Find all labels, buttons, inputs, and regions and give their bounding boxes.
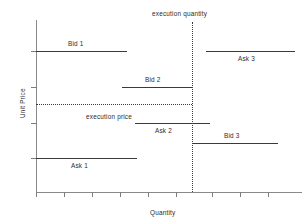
order-line-bid-2 — [122, 87, 192, 88]
x-axis-title: Quantity — [150, 209, 175, 216]
x-axis-tick — [148, 192, 149, 197]
order-line-ask-1 — [36, 158, 137, 159]
x-axis-tick — [120, 192, 121, 197]
y-axis-tick — [31, 123, 37, 124]
order-label-ask-1: Ask 1 — [71, 162, 88, 169]
y-axis-tick — [31, 87, 37, 88]
x-axis-tick — [92, 192, 93, 197]
execution-price-label: execution price — [86, 113, 132, 120]
order-line-bid-3 — [192, 143, 278, 144]
order-line-ask-3 — [206, 51, 295, 52]
execution-quantity-line — [192, 22, 193, 192]
order-label-ask-3: Ask 3 — [238, 55, 255, 62]
order-label-ask-2: Ask 2 — [155, 127, 172, 134]
x-axis-tick — [240, 192, 241, 197]
x-axis — [36, 192, 302, 193]
x-axis-tick — [36, 192, 37, 197]
execution-price-line — [36, 104, 192, 105]
x-axis-tick — [268, 192, 269, 197]
execution-quantity-label: execution quantity — [152, 10, 207, 17]
order-label-bid-3: Bid 3 — [224, 132, 240, 139]
order-line-ask-2 — [135, 123, 210, 124]
order-label-bid-1: Bid 1 — [68, 40, 84, 47]
order-line-bid-1 — [36, 51, 127, 52]
order-book-chart: execution quantity execution price Bid 1… — [0, 0, 307, 223]
x-axis-tick — [176, 192, 177, 197]
y-axis — [36, 20, 37, 193]
x-axis-tick — [212, 192, 213, 197]
y-axis-title: Unit Price — [19, 88, 26, 118]
order-label-bid-2: Bid 2 — [145, 76, 161, 83]
x-axis-tick — [64, 192, 65, 197]
